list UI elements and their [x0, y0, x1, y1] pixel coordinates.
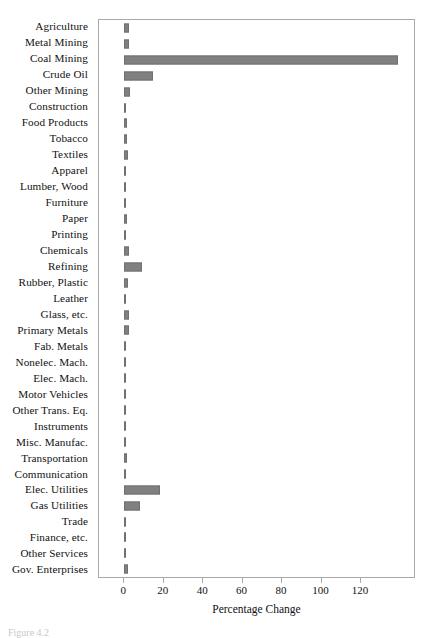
category-label: Instruments — [0, 418, 93, 434]
bar — [124, 215, 127, 224]
bar — [124, 135, 126, 144]
bar — [124, 278, 128, 287]
category-label: Communication — [0, 466, 93, 482]
bar-row — [99, 163, 414, 179]
bar — [124, 533, 126, 542]
category-label: Other Trans. Eq. — [0, 402, 93, 418]
bar-row — [99, 179, 414, 195]
bar — [124, 151, 128, 160]
category-label: Coal Mining — [0, 51, 93, 67]
category-label: Trade — [0, 514, 93, 530]
bar — [124, 358, 126, 367]
category-label: Elec. Utilities — [0, 482, 93, 498]
category-axis-labels: AgricultureMetal MiningCoal MiningCrude … — [0, 19, 93, 578]
bar — [124, 23, 128, 32]
bar-row — [99, 354, 414, 370]
category-label: Metal Mining — [0, 35, 93, 51]
bar — [124, 374, 126, 383]
plot-area — [98, 19, 415, 578]
bar-row — [99, 116, 414, 132]
bar-row — [99, 147, 414, 163]
category-label: Agriculture — [0, 19, 93, 35]
category-label: Elec. Mach. — [0, 370, 93, 386]
x-tick-label: 0 — [121, 584, 127, 596]
x-tick — [321, 578, 322, 583]
bar-row — [99, 514, 414, 530]
bar — [124, 199, 126, 208]
category-label: Nonelec. Mach. — [0, 354, 93, 370]
category-label: Apparel — [0, 163, 93, 179]
bar-row — [99, 195, 414, 211]
figure-caption: Figure 4.2 — [8, 627, 49, 638]
bar-row — [99, 131, 414, 147]
bar — [124, 501, 140, 510]
category-label: Transportation — [0, 450, 93, 466]
bar-row — [99, 450, 414, 466]
bar-row — [99, 52, 414, 68]
x-tick — [360, 578, 361, 583]
bar-row — [99, 338, 414, 354]
bar-row — [99, 259, 414, 275]
bar — [124, 517, 126, 526]
bar — [124, 71, 152, 80]
bar — [124, 342, 126, 351]
bar — [124, 87, 130, 96]
category-label: Printing — [0, 227, 93, 243]
bar-row — [99, 323, 414, 339]
bar-row — [99, 100, 414, 116]
category-label: Chemicals — [0, 243, 93, 259]
x-axis-title: Percentage Change — [98, 603, 415, 615]
category-label: Food Products — [0, 115, 93, 131]
bar-row — [99, 291, 414, 307]
x-tick — [202, 578, 203, 583]
category-label: Rubber, Plastic — [0, 275, 93, 291]
category-label: Construction — [0, 99, 93, 115]
category-label: Primary Metals — [0, 322, 93, 338]
bar-row — [99, 466, 414, 482]
bar-row — [99, 402, 414, 418]
x-tick-label: 80 — [276, 584, 287, 596]
x-tick-label: 100 — [312, 584, 329, 596]
bar — [124, 422, 126, 431]
x-tick — [163, 578, 164, 583]
bar-series — [99, 20, 414, 577]
bar — [124, 167, 126, 176]
category-label: Misc. Manufac. — [0, 434, 93, 450]
bar-row — [99, 434, 414, 450]
x-tick — [242, 578, 243, 583]
bar — [124, 326, 129, 335]
bar-row — [99, 84, 414, 100]
bar-row — [99, 20, 414, 36]
bar — [124, 230, 126, 239]
category-label: Other Services — [0, 546, 93, 562]
bar — [124, 565, 128, 574]
category-label: Furniture — [0, 195, 93, 211]
category-label: Other Mining — [0, 83, 93, 99]
bar — [124, 262, 141, 271]
bar — [124, 453, 127, 462]
x-tick-label: 40 — [197, 584, 208, 596]
bar-row — [99, 545, 414, 561]
category-label: Motor Vehicles — [0, 386, 93, 402]
category-label: Tobacco — [0, 131, 93, 147]
bar-row — [99, 386, 414, 402]
category-label: Paper — [0, 211, 93, 227]
bar-row — [99, 498, 414, 514]
category-label: Textiles — [0, 147, 93, 163]
bar — [124, 119, 126, 128]
bar-row — [99, 561, 414, 577]
bar — [124, 549, 126, 558]
bar-row — [99, 243, 414, 259]
bar-row — [99, 307, 414, 323]
bar — [124, 437, 126, 446]
category-label: Finance, etc. — [0, 530, 93, 546]
category-label: Refining — [0, 259, 93, 275]
bar — [124, 246, 129, 255]
bar — [124, 469, 126, 478]
bar — [124, 485, 160, 494]
x-tick-label: 60 — [236, 584, 247, 596]
category-label: Crude Oil — [0, 67, 93, 83]
x-tick-label: 120 — [352, 584, 369, 596]
category-label: Gas Utilities — [0, 498, 93, 514]
